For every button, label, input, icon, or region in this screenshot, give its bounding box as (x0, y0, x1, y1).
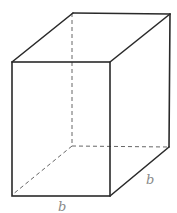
label-front-bottom-b: b (58, 199, 66, 213)
edge-top-back (73, 13, 170, 14)
hidden-edge-left-bottom (12, 146, 72, 195)
rectangular-prism-diagram: b b (0, 0, 177, 213)
visible-edges (12, 13, 170, 196)
edge-top-left-slant (12, 13, 73, 62)
edge-top-right-slant (110, 14, 170, 62)
front-face (12, 62, 110, 196)
hidden-edges (12, 13, 169, 195)
edge-bottom-right-slant (110, 147, 169, 196)
hidden-edge-back-bottom (72, 146, 169, 147)
label-right-bottom-b: b (146, 172, 154, 187)
edge-back-right-vertical (169, 14, 170, 147)
